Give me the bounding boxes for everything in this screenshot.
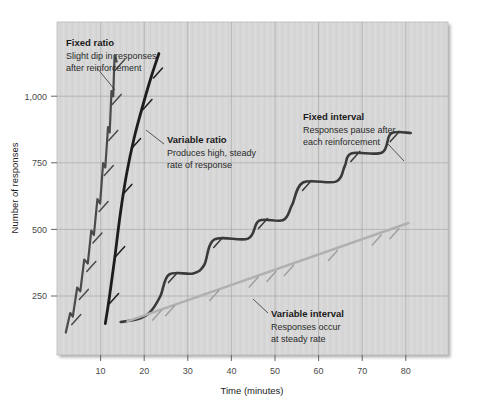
y-axis-title: Number of responses	[9, 142, 20, 233]
x-tick-label: 10	[96, 366, 106, 376]
annotation-title: Fixed ratio	[66, 37, 114, 48]
annotation-line: Responses pause after	[303, 125, 396, 135]
x-tick-label: 30	[183, 366, 193, 376]
annotation-title: Variable interval	[271, 308, 344, 319]
x-tick-label: 20	[139, 366, 149, 376]
x-tick-label: 70	[357, 366, 367, 376]
y-tick-label: 250	[32, 291, 47, 301]
annotation-line: each reinforcement	[303, 137, 381, 147]
x-tick-label: 40	[226, 366, 236, 376]
y-tick-label: 500	[32, 225, 47, 235]
annotation-line: Produces high, steady	[167, 148, 257, 158]
x-tick-label: 50	[270, 366, 280, 376]
reinforcement-schedules-figure: 10 20 30 40 50 60 70 80 1,000 750 500 25…	[0, 0, 479, 412]
annotation-title: Variable ratio	[167, 134, 227, 145]
annotation-line: at steady rate	[271, 334, 326, 344]
x-tick-label: 80	[401, 366, 411, 376]
annotation-title: Fixed interval	[303, 111, 364, 122]
annotation-line: Responses occur	[271, 322, 341, 332]
chart-canvas: 10 20 30 40 50 60 70 80 1,000 750 500 25…	[0, 0, 479, 412]
y-tick-label: 750	[32, 158, 47, 168]
x-tick-label: 60	[314, 366, 324, 376]
annotation-line: after reinforcement	[66, 63, 142, 73]
annotation-line: rate of response	[167, 160, 232, 170]
annotation-line: Slight dip in responses	[66, 51, 157, 61]
x-axis-title: Time (minutes)	[221, 385, 284, 396]
y-tick-label: 1,000	[24, 92, 47, 102]
